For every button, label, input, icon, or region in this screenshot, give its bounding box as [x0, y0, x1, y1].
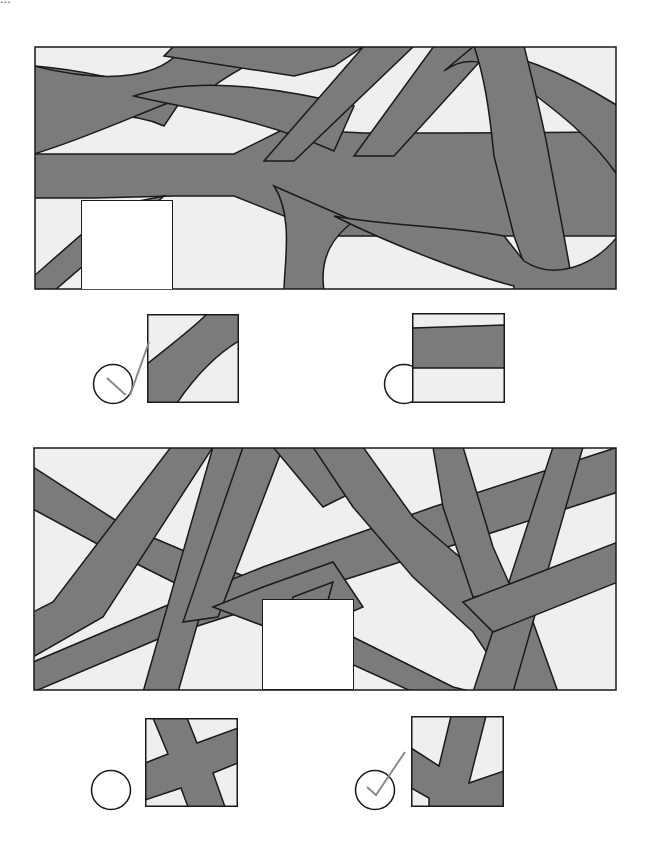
option-1a-tile[interactable] [147, 314, 239, 403]
check-icon [365, 750, 410, 800]
option-1b-tile[interactable] [412, 313, 505, 403]
option-2b-tile[interactable] [411, 716, 504, 807]
puzzle-1-missing-piece [81, 200, 173, 289]
check-icon [105, 340, 150, 395]
cut-off-instruction-text: ... [0, 0, 647, 3]
option-2a-tile[interactable] [145, 718, 238, 807]
option-2a-radio[interactable] [90, 769, 132, 811]
puzzle-2-missing-piece [262, 599, 354, 690]
